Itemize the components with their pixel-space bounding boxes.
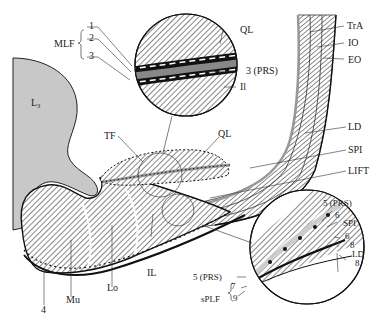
label-8-b: 8 <box>355 258 360 269</box>
label-lo: Lo <box>107 282 118 293</box>
label-6-a: 6 <box>335 210 340 221</box>
bottom-inset-connector <box>202 225 252 243</box>
label-mlf-3: 3 <box>89 50 94 61</box>
label-4: 4 <box>41 304 46 315</box>
label-prs-5-left: 5 (PRS) <box>193 272 222 283</box>
label-mlf: MLF <box>54 38 75 49</box>
label-il-top: Il <box>240 81 246 92</box>
mlf-brace <box>78 30 84 59</box>
label-io: IO <box>348 37 359 48</box>
label-l3: L₃ <box>31 97 41 108</box>
label-9: 9 <box>233 293 238 304</box>
label-mu: Mu <box>66 294 80 305</box>
label-spi-inset: SPI <box>343 218 356 229</box>
label-mlf-2: 2 <box>89 32 94 43</box>
label-ql-top: QL <box>240 24 253 35</box>
label-eo: EO <box>348 54 361 65</box>
label-spi: SPI <box>348 144 362 155</box>
label-7: 7 <box>231 281 236 292</box>
label-ld: LD <box>348 121 361 132</box>
label-il: IL <box>147 267 156 278</box>
top-inset-connector <box>163 116 172 153</box>
label-splf: sPLF <box>201 294 220 305</box>
label-prs-5-top: 5 (PRS) <box>323 198 352 209</box>
label-prs-3: 3 (PRS) <box>246 65 278 76</box>
label-6-b: 6 <box>345 231 350 242</box>
label-lift: LIFT <box>348 165 369 176</box>
label-tf: TF <box>104 130 116 141</box>
label-tra: TrA <box>347 20 363 31</box>
top-inset-magnification <box>130 14 240 116</box>
label-mlf-1: 1 <box>89 20 94 31</box>
label-ql-mid: QL <box>218 128 231 139</box>
